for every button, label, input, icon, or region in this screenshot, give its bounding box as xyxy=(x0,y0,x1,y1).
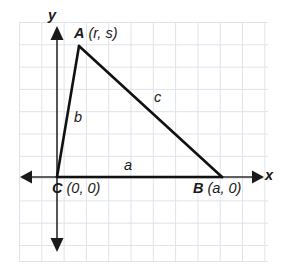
vertex-a-coord: (r, s) xyxy=(89,25,118,41)
y-axis-label: y xyxy=(48,8,56,23)
vertex-b-point: B xyxy=(193,180,203,196)
vertex-c-coord: (0, 0) xyxy=(67,180,101,196)
y-axis-arrow-up xyxy=(51,26,64,40)
y-axis xyxy=(51,26,64,252)
x-axis-label: x xyxy=(265,168,273,183)
vertex-label-a: A (r, s) xyxy=(74,26,118,41)
coordinate-plane-svg xyxy=(0,0,284,274)
vertex-b-coord: (a, 0) xyxy=(208,180,242,196)
side-label-c: c xyxy=(154,90,161,105)
geometry-figure: A (r, s) C (0, 0) B (a, 0) b c a y x xyxy=(0,0,284,274)
x-axis-arrow-right xyxy=(252,171,264,184)
x-axis-arrow-left xyxy=(20,171,32,184)
vertex-a-point: A xyxy=(74,25,84,41)
vertex-label-b: B (a, 0) xyxy=(193,181,241,196)
vertex-label-c: C (0, 0) xyxy=(52,181,100,196)
side-label-a: a xyxy=(124,158,132,173)
vertex-c-point: C xyxy=(52,180,62,196)
side-label-b: b xyxy=(74,110,82,125)
